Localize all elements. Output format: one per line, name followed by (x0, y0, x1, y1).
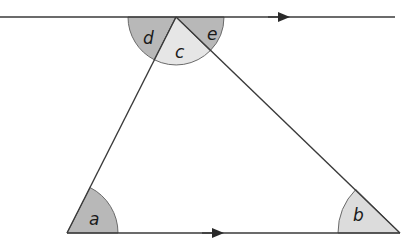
angle-label-b: b (353, 205, 364, 225)
geometry-diagram: d c e a b (0, 0, 413, 250)
angle-label-d: d (143, 28, 154, 48)
angle-label-a: a (89, 209, 99, 229)
angle-label-e: e (207, 24, 217, 44)
triangle-side-left (67, 17, 176, 233)
angle-label-c: c (175, 42, 185, 62)
triangle-side-right (176, 17, 400, 233)
angle-b-sector (338, 190, 400, 234)
